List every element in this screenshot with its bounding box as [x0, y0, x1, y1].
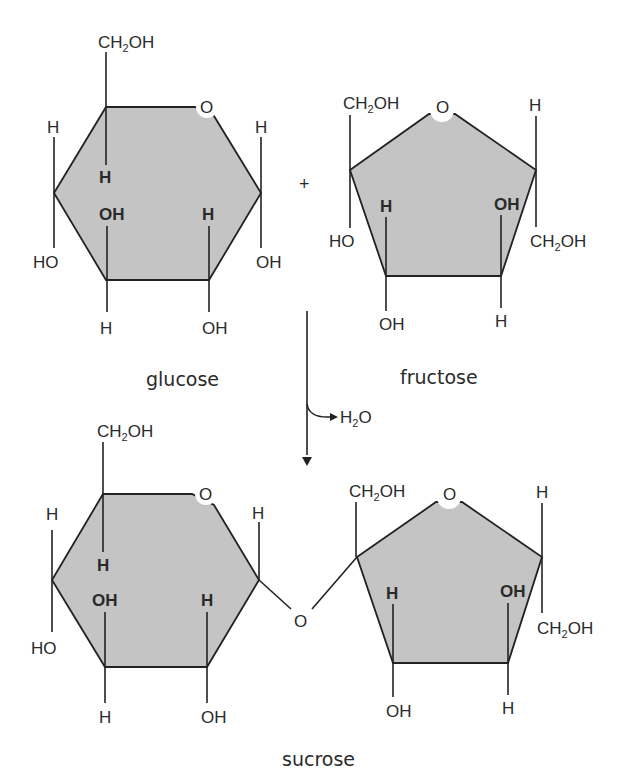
fructose-molecule: O CH2OH HO H OH OH H H CH2OH fructose — [329, 94, 586, 388]
sucrose-glucose-ring — [52, 494, 259, 667]
glucose-c4-oh: HO — [33, 253, 59, 272]
glycosidic-bond-right — [312, 557, 357, 609]
glucose-c6-label: CH2OH — [98, 33, 154, 54]
fructose-c2-label: CH2OH — [343, 94, 399, 115]
glucose-c2-oh: OH — [202, 319, 228, 338]
sucrose-g-c3-oh: OH — [92, 591, 118, 610]
glucose-c1-oh: OH — [256, 253, 282, 272]
water-byproduct-label: H2O — [340, 408, 372, 429]
glucose-ring-oxygen: O — [200, 98, 213, 117]
fructose-c2-oh: HO — [329, 232, 355, 251]
sucrose-f-c5-h: H — [536, 483, 548, 502]
sucrose-g-c4-oh: HO — [31, 639, 57, 658]
sucrose-f-c3-h: H — [386, 584, 398, 603]
plus-sign: + — [299, 174, 310, 194]
sucrose-f-c2-label: CH2OH — [349, 482, 405, 503]
glucose-caption: glucose — [146, 368, 219, 390]
sucrose-f-c5-label: CH2OH — [537, 619, 593, 640]
fructose-c3-oh: OH — [379, 315, 405, 334]
glucose-c1-h: H — [255, 118, 267, 137]
glucose-c5-h: H — [99, 168, 111, 187]
glucose-c4-h: H — [47, 118, 59, 137]
fructose-caption: fructose — [400, 366, 478, 388]
glucose-molecule: O CH2OH H H HO OH H H OH H OH glucose — [33, 33, 282, 390]
fructose-c3-h: H — [380, 197, 392, 216]
glucose-c3-oh: OH — [99, 205, 125, 224]
sucrose-g-c2-oh: OH — [201, 708, 227, 727]
sucrose-g-c3-h: H — [99, 708, 111, 727]
sucrose-glucose-ring-oxygen: O — [199, 485, 212, 504]
sucrose-molecule: O CH2OH H H HO OH H H OH H O O CH2OH H O… — [31, 422, 593, 770]
glycosidic-bond-left — [259, 580, 291, 609]
sucrose-g-c4-h: H — [46, 505, 58, 524]
water-release-curve — [307, 404, 330, 417]
fructose-c4-oh: OH — [494, 195, 520, 214]
water-release-arrowhead-icon — [330, 413, 338, 421]
reaction-arrow: H2O — [302, 311, 372, 466]
sucrose-g-c1-h: H — [252, 504, 264, 523]
sucrose-f-c3-oh: OH — [386, 702, 412, 721]
sucrose-g-c2-h: H — [201, 591, 213, 610]
glycosidic-oxygen: O — [294, 612, 307, 631]
down-arrow-head-icon — [302, 457, 312, 466]
sucrose-f-c4-h: H — [502, 699, 514, 718]
sucrose-g-c6-label: CH2OH — [97, 422, 153, 443]
fructose-c4-h: H — [495, 312, 507, 331]
sucrose-formation-diagram: O CH2OH H H HO OH H H OH H OH glucose + … — [0, 0, 632, 774]
glucose-ring — [54, 107, 261, 280]
glucose-c2-h: H — [202, 205, 214, 224]
fructose-c5-h: H — [529, 96, 541, 115]
fructose-ring-oxygen: O — [436, 98, 449, 117]
sucrose-caption: sucrose — [282, 748, 355, 770]
glucose-c3-h: H — [100, 319, 112, 338]
sucrose-f-c4-oh: OH — [500, 582, 526, 601]
sucrose-fructose-ring-oxygen: O — [443, 485, 456, 504]
sucrose-g-c5-h: H — [97, 556, 109, 575]
fructose-c5-label: CH2OH — [530, 232, 586, 253]
